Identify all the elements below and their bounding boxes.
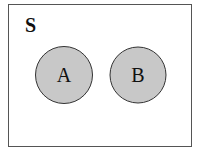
venn-diagram: S A B <box>0 0 199 154</box>
set-a-label: A <box>57 64 72 86</box>
set-b-label: B <box>131 64 144 86</box>
universe-label: S <box>25 14 36 36</box>
